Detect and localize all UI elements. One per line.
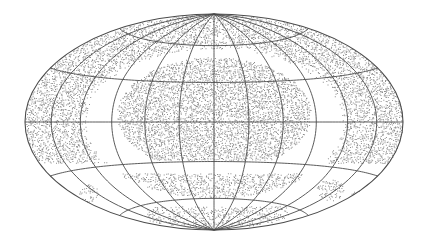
hammer-projection-plot — [0, 0, 427, 246]
sky-map — [0, 0, 427, 246]
